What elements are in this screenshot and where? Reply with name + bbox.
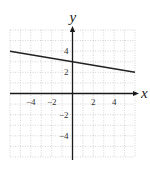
y-axis-arrow-icon [70, 26, 75, 32]
x-tick-label: 2 [91, 97, 96, 107]
y-tick-label: −4 [59, 131, 69, 141]
y-tick-label: 4 [64, 46, 69, 56]
x-tick-label: −2 [47, 97, 57, 107]
x-axis-label: x [140, 85, 148, 101]
x-tick-label: 4 [112, 97, 117, 107]
y-tick-label: −2 [59, 110, 69, 120]
x-tick-label: −4 [26, 97, 36, 107]
x-axis-arrow-icon [133, 91, 139, 96]
y-tick-label: 2 [64, 67, 69, 77]
coordinate-plane: −4−22442−2−4 x y [0, 0, 150, 170]
y-axis-label: y [68, 9, 77, 25]
axes [10, 26, 139, 160]
